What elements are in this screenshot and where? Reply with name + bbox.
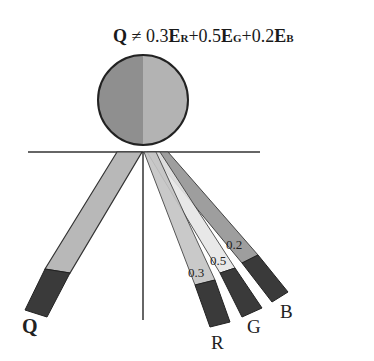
weight-r: 0.3	[188, 265, 204, 280]
label-g: G	[247, 316, 261, 337]
stick-diagram: 0.3 0.5 0.2 Q R G B	[0, 0, 374, 361]
stick-q-tip	[25, 269, 70, 317]
weight-g: 0.5	[210, 253, 226, 268]
head-circle	[98, 55, 188, 145]
stick-q	[25, 152, 142, 317]
label-r: R	[211, 332, 224, 353]
weight-b: 0.2	[226, 237, 242, 252]
label-b: B	[280, 301, 293, 322]
label-q: Q	[22, 315, 38, 337]
stick-r-tip	[195, 280, 230, 327]
